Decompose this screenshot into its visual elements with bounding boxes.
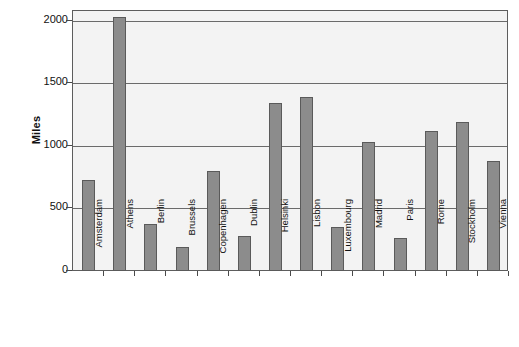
- x-axis-label-copenhagen: Copenhagen: [217, 199, 229, 279]
- x-axis-label-athens: Athens: [124, 199, 136, 279]
- x-axis-label-brussels: Brussels: [186, 199, 198, 279]
- y-axis-tick-label: 0: [6, 264, 68, 275]
- bar-chart: Miles 0500100015002000 AmsterdamAthensBe…: [0, 0, 519, 347]
- y-axis-tick-label: 2000: [6, 14, 68, 25]
- gridline: [73, 83, 507, 84]
- x-axis-label-amsterdam: Amsterdam: [93, 199, 105, 279]
- y-axis-tick-label: 1500: [6, 76, 68, 87]
- y-axis-tick-label: 1000: [6, 139, 68, 150]
- gridline: [73, 146, 507, 147]
- x-axis-label-berlin: Berlin: [155, 199, 167, 279]
- x-axis-label-lisbon: Lisbon: [311, 199, 323, 279]
- gridline: [73, 21, 507, 22]
- y-axis-tick-layer: 0500100015002000: [0, 0, 68, 347]
- x-axis-label-vienna: Vienna: [497, 199, 509, 279]
- x-axis-label-helsinki: Helsinki: [279, 199, 291, 279]
- x-axis-label-rome: Rome: [435, 199, 447, 279]
- x-axis-label-paris: Paris: [404, 199, 416, 279]
- x-axis-label-luxembourg: Luxembourg: [342, 199, 354, 279]
- x-axis-label-dublin: Dublin: [248, 199, 260, 279]
- y-axis-tick-label: 500: [6, 201, 68, 212]
- x-axis-label-stockholm: Stockholm: [466, 199, 478, 279]
- x-axis-label-madrid: Madrid: [373, 199, 385, 279]
